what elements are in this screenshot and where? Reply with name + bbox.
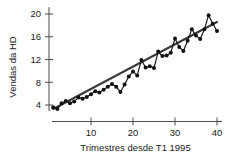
data-point-marker <box>85 95 89 99</box>
chart-figure: 48121620 10203040 Vendas da HD Trimestre… <box>0 0 238 159</box>
data-point-marker <box>215 29 219 33</box>
data-point-marker <box>135 73 139 77</box>
y-axis-group: 48121620 <box>30 7 53 111</box>
data-point-marker <box>169 51 173 55</box>
data-point-marker <box>51 105 55 109</box>
data-point-marker <box>186 39 190 43</box>
y-tick-label: 8 <box>36 77 41 88</box>
data-point-marker <box>181 49 185 53</box>
x-tick-label: 30 <box>170 127 181 138</box>
y-tick-label: 12 <box>30 54 41 65</box>
data-point-marker <box>89 92 93 96</box>
y-axis-tick-labels: 48121620 <box>30 8 41 110</box>
y-tick-label: 16 <box>30 31 41 42</box>
data-point-marker <box>72 100 76 104</box>
data-point-marker <box>110 82 114 86</box>
data-point-marker <box>139 58 143 62</box>
data-point-marker <box>131 69 135 73</box>
data-point-marker <box>156 50 160 54</box>
data-point-marker <box>127 75 131 79</box>
data-point-marker <box>152 66 156 70</box>
data-point-marker <box>102 88 106 92</box>
y-axis-title: Vendas da HD <box>7 36 18 97</box>
data-point-marker <box>144 65 148 69</box>
x-tick-label: 40 <box>212 127 223 138</box>
data-point-marker <box>118 90 122 94</box>
data-point-marker <box>198 37 202 41</box>
x-tick-label: 20 <box>128 127 139 138</box>
data-point-marker <box>207 13 211 17</box>
y-tick-label: 4 <box>36 99 41 110</box>
chart-canvas: 48121620 10203040 Vendas da HD Trimestre… <box>0 0 238 159</box>
data-point-marker <box>165 54 169 58</box>
data-point-marker <box>123 83 127 87</box>
data-point-marker <box>114 85 118 89</box>
data-point-marker <box>97 90 101 94</box>
x-axis-title: Trimestres desde T1 1995 <box>80 142 190 153</box>
data-point-marker <box>93 89 97 93</box>
data-point-marker <box>202 27 206 31</box>
data-point-marker <box>68 101 72 105</box>
x-axis-tick-labels: 10203040 <box>86 127 223 138</box>
data-point-marker <box>190 27 194 31</box>
data-point-marker <box>160 54 164 58</box>
data-point-marker <box>194 34 198 38</box>
data-point-marker <box>76 96 80 100</box>
y-tick-label: 20 <box>30 8 41 19</box>
data-point-marker <box>106 85 110 89</box>
data-point-marker <box>60 101 64 105</box>
data-point-marker <box>64 99 68 103</box>
data-point-marker <box>55 107 59 111</box>
data-point-marker <box>211 22 215 26</box>
data-point-marker <box>177 45 181 49</box>
x-axis-group: 10203040 <box>52 118 222 138</box>
data-point-marker <box>148 64 152 68</box>
data-point-marker <box>81 97 85 101</box>
data-point-marker <box>173 36 177 40</box>
x-tick-label: 10 <box>86 127 97 138</box>
